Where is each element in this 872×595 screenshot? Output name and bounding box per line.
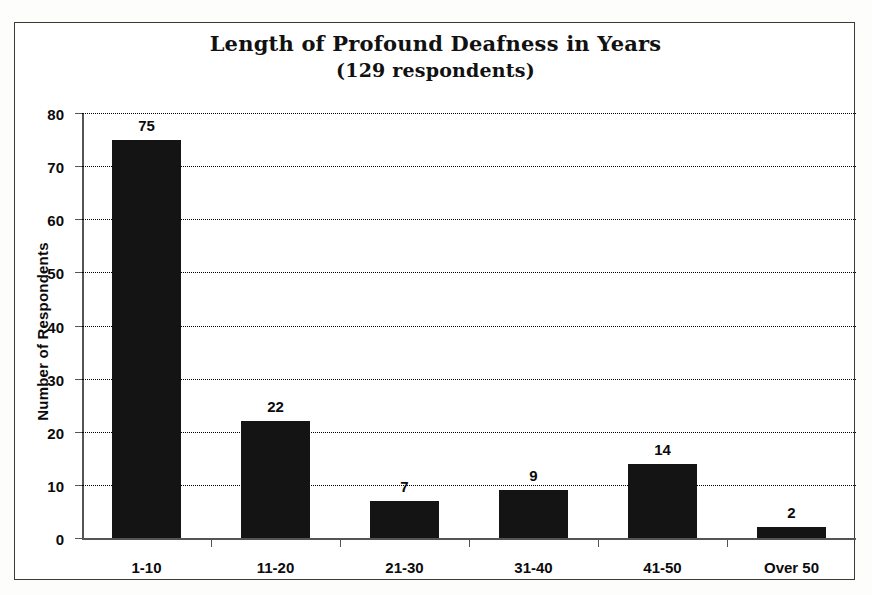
y-axis-tick: 40 — [75, 326, 82, 327]
chart-title: Length of Profound Deafness in Years — [15, 31, 856, 57]
bar-value-label: 75 — [138, 117, 155, 134]
x-axis-category-label: 1-10 — [131, 559, 161, 576]
bar[interactable] — [370, 501, 438, 538]
x-axis-tick — [211, 538, 212, 547]
bar[interactable] — [241, 421, 309, 538]
gridline — [82, 166, 856, 167]
y-axis-tick-label: 50 — [47, 265, 64, 282]
bar[interactable] — [499, 490, 567, 538]
gridline — [82, 272, 856, 273]
gridline — [82, 379, 856, 380]
gridline — [82, 432, 856, 433]
bar[interactable] — [628, 464, 696, 538]
gridline — [82, 326, 856, 327]
gridline — [82, 485, 856, 486]
y-axis-tick-label: 80 — [47, 106, 64, 123]
x-axis-category-label: 11-20 — [257, 559, 295, 576]
bar-value-label: 9 — [529, 467, 537, 484]
chart-subtitle: (129 respondents) — [15, 57, 856, 83]
y-axis-tick: 60 — [75, 219, 82, 220]
x-axis-category-label: 21-30 — [385, 559, 423, 576]
y-axis-tick-label: 40 — [47, 318, 64, 335]
y-axis-tick-label: 70 — [47, 159, 64, 176]
bar-value-label: 7 — [400, 478, 408, 495]
chart-page: Length of Profound Deafness in Years (12… — [0, 0, 872, 595]
bar-value-label: 2 — [787, 504, 795, 521]
x-axis-category-label: 31-40 — [514, 559, 552, 576]
plot-area: 80706050403020100 752279142 1-1011-2021-… — [82, 113, 856, 538]
y-axis-tick: 0 — [75, 538, 82, 539]
y-axis-tick: 10 — [75, 485, 82, 486]
gridline — [82, 219, 856, 220]
y-axis-tick-label: 30 — [47, 371, 64, 388]
y-axis-tick: 70 — [75, 166, 82, 167]
gridline — [82, 113, 856, 114]
x-axis-tick — [340, 538, 341, 547]
y-axis-tick-label: 20 — [47, 424, 64, 441]
y-axis-tick-label: 0 — [56, 531, 64, 548]
x-axis-category-label: Over 50 — [764, 559, 819, 576]
x-axis-tick — [598, 538, 599, 547]
bar[interactable] — [757, 527, 825, 538]
bar-value-label: 22 — [267, 398, 284, 415]
bar[interactable] — [112, 140, 180, 538]
bar-value-label: 14 — [654, 441, 671, 458]
y-axis-tick-label: 60 — [47, 212, 64, 229]
x-axis-tick — [727, 538, 728, 547]
y-axis-tick: 30 — [75, 379, 82, 380]
y-axis-tick-label: 10 — [47, 477, 64, 494]
y-axis-tick: 50 — [75, 272, 82, 273]
chart-frame: Length of Profound Deafness in Years (12… — [14, 22, 855, 580]
y-axis-tick: 20 — [75, 432, 82, 433]
x-axis-category-label: 41-50 — [643, 559, 681, 576]
y-axis-tick: 80 — [75, 113, 82, 114]
x-axis-tick — [469, 538, 470, 547]
chart-title-block: Length of Profound Deafness in Years (12… — [15, 31, 856, 83]
